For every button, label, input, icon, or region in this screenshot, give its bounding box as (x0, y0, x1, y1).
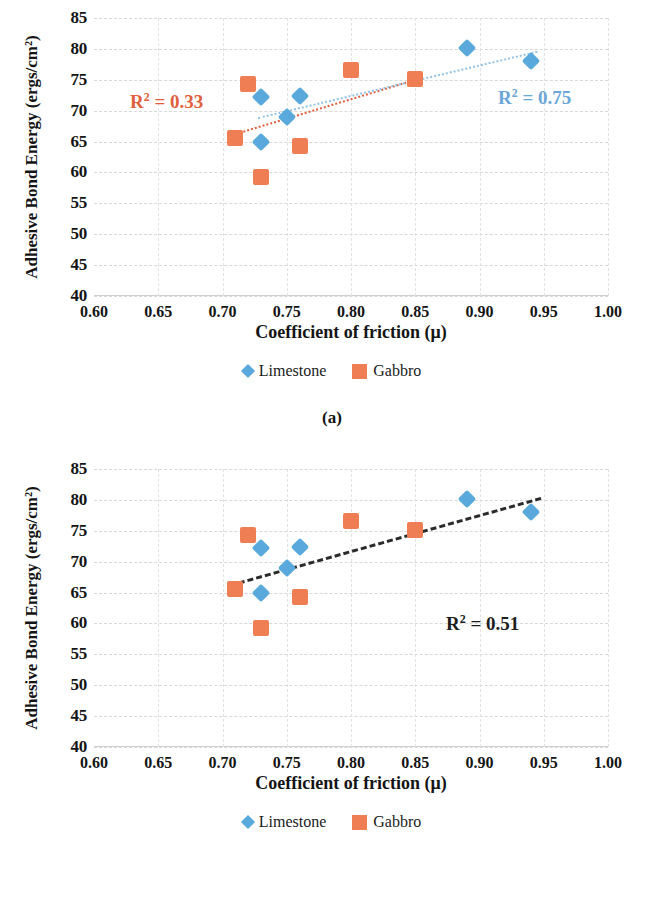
gridline-vertical (287, 18, 288, 296)
y-axis-tick-label: 65 (70, 583, 94, 603)
data-point-limestone (290, 87, 308, 105)
r-squared-annotation: R2 = 0.33 (130, 90, 203, 113)
gridline-vertical (415, 469, 416, 747)
y-axis-tick-label: 70 (70, 552, 94, 572)
x-axis-tick-label: 0.80 (337, 303, 365, 321)
x-axis-title-text-a: Coefficient of friction (μ) (255, 322, 447, 342)
legend-item-limestone[interactable]: Limestone (243, 362, 327, 380)
x-axis-tick-label: 0.95 (530, 303, 558, 321)
diamond-marker-icon (241, 815, 255, 829)
data-point-gabbro (253, 169, 269, 185)
gridline-vertical (223, 469, 224, 747)
r-squared-annotation: R2 = 0.51 (446, 612, 519, 635)
data-point-gabbro (292, 589, 308, 605)
data-point-limestone (522, 502, 540, 520)
y-axis-tick-label: 55 (70, 644, 94, 664)
plot-area-a: 404550556065707580850.600.650.700.750.80… (94, 18, 608, 296)
data-point-gabbro (240, 527, 256, 543)
data-point-gabbro (407, 71, 423, 87)
y-axis-tick-label: 55 (70, 193, 94, 213)
y-axis-tick-label: 45 (70, 255, 94, 275)
plot-area-b: 404550556065707580850.600.650.700.750.80… (94, 469, 608, 747)
y-axis-title-text-b: Adhesive Bond Energy (ergs/cm²) (22, 486, 42, 730)
gridline-vertical (287, 469, 288, 747)
data-point-gabbro (227, 581, 243, 597)
y-axis-tick-label: 60 (70, 162, 94, 182)
y-axis-tick-label: 75 (70, 70, 94, 90)
y-axis-tick-label: 85 (70, 8, 94, 28)
x-axis-tick-label: 0.85 (401, 303, 429, 321)
x-axis-tick-label: 0.65 (144, 754, 172, 772)
y-axis-tick-label: 50 (70, 224, 94, 244)
legend-item-gabbro[interactable]: Gabbro (352, 362, 421, 380)
gridline-vertical (544, 18, 545, 296)
gridline-vertical (223, 18, 224, 296)
gridline-vertical (480, 18, 481, 296)
x-axis-tick-label: 0.60 (80, 303, 108, 321)
data-point-gabbro (407, 522, 423, 538)
x-axis-tick-label: 0.75 (273, 303, 301, 321)
x-axis-title-text-b: Coefficient of friction (μ) (255, 773, 447, 793)
diamond-marker-icon (241, 364, 255, 378)
square-marker-icon (352, 815, 367, 830)
y-axis-title-b: Adhesive Bond Energy (ergs/cm²) (20, 469, 44, 747)
data-point-gabbro (253, 620, 269, 636)
gridline-vertical (351, 18, 352, 296)
y-axis-tick-label: 70 (70, 101, 94, 121)
r-squared-value: = 0.51 (466, 613, 520, 634)
y-axis-title-a: Adhesive Bond Energy (ergs/cm²) (20, 18, 44, 296)
scatter-chart-b: Adhesive Bond Energy (ergs/cm²) 40455055… (0, 451, 664, 902)
scatter-chart-a: Adhesive Bond Energy (ergs/cm²) 40455055… (0, 0, 664, 451)
figure-panel-b: Adhesive Bond Energy (ergs/cm²) 40455055… (0, 451, 664, 902)
data-point-gabbro (227, 130, 243, 146)
legend-item-limestone[interactable]: Limestone (243, 813, 327, 831)
y-axis-tick-label: 80 (70, 490, 94, 510)
legend-label: Limestone (259, 813, 327, 831)
gridline-horizontal (94, 747, 608, 748)
y-axis-tick-label: 50 (70, 675, 94, 695)
data-point-limestone (290, 538, 308, 556)
gridline-vertical (351, 469, 352, 747)
trendline (258, 51, 537, 119)
r-squared-symbol: R (446, 613, 460, 634)
trendline (230, 497, 542, 587)
gridline-vertical (544, 469, 545, 747)
r-squared-symbol: R (130, 91, 144, 112)
gridline-vertical (158, 18, 159, 296)
x-axis-title-b: Coefficient of friction (μ) (94, 773, 608, 794)
r-squared-value: = 0.75 (518, 87, 572, 108)
legend-label: Limestone (259, 362, 327, 380)
gridline-horizontal (94, 296, 608, 297)
data-point-gabbro (292, 138, 308, 154)
gridline-vertical (158, 469, 159, 747)
x-axis-tick-label: 1.00 (594, 754, 622, 772)
legend-item-gabbro[interactable]: Gabbro (352, 813, 421, 831)
x-axis-tick-label: 0.75 (273, 754, 301, 772)
gridline-vertical (608, 469, 609, 747)
y-axis-tick-label: 85 (70, 459, 94, 479)
data-point-gabbro (343, 513, 359, 529)
data-point-limestone (457, 39, 475, 57)
x-axis-tick-label: 1.00 (594, 303, 622, 321)
x-axis-tick-label: 0.90 (466, 303, 494, 321)
data-point-limestone (457, 490, 475, 508)
x-axis-tick-label: 0.95 (530, 754, 558, 772)
gridline-vertical (480, 469, 481, 747)
data-point-gabbro (240, 76, 256, 92)
legend-label: Gabbro (373, 362, 421, 380)
data-point-gabbro (343, 62, 359, 78)
y-axis-title-text-a: Adhesive Bond Energy (ergs/cm²) (22, 35, 42, 279)
x-axis-tick-label: 0.60 (80, 754, 108, 772)
legend-a: LimestoneGabbro (0, 362, 664, 380)
r-squared-symbol: R (498, 87, 512, 108)
y-axis-tick-label: 45 (70, 706, 94, 726)
data-point-limestone (252, 583, 270, 601)
x-axis-tick-label: 0.65 (144, 303, 172, 321)
panel-caption-a: (a) (0, 408, 664, 428)
x-axis-tick-label: 0.85 (401, 754, 429, 772)
x-axis-tick-label: 0.70 (209, 754, 237, 772)
y-axis-tick-label: 80 (70, 39, 94, 59)
r-squared-value: = 0.33 (150, 91, 204, 112)
x-axis-tick-label: 0.80 (337, 754, 365, 772)
y-axis-tick-label: 65 (70, 132, 94, 152)
